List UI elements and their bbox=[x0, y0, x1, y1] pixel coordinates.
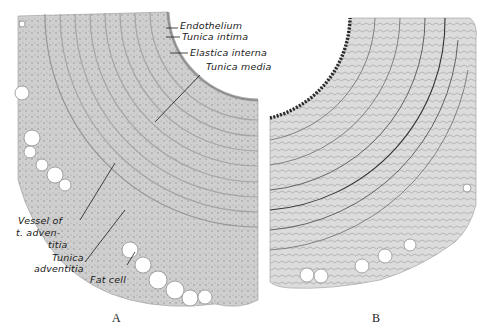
label-vessel-line2: t. adven- bbox=[16, 227, 60, 238]
label-adventitia-line1: Tunica bbox=[52, 252, 84, 263]
histology-figure: Endothelium Tunica intima Elastica inter… bbox=[0, 0, 491, 331]
panel-label-a: A bbox=[112, 311, 121, 326]
panel-b-tissue bbox=[270, 18, 476, 288]
label-endothelium: Endothelium bbox=[180, 20, 242, 31]
label-adventitia-line2: adventitia bbox=[34, 263, 84, 274]
label-tunica-intima: Tunica intima bbox=[182, 31, 248, 42]
panel-label-b: B bbox=[372, 311, 380, 326]
label-elastica-interna: Elastica interna bbox=[190, 47, 267, 58]
label-vessel-line1: Vessel of bbox=[18, 215, 62, 226]
label-tunica-media: Tunica media bbox=[206, 61, 272, 72]
label-fat-cell: Fat cell bbox=[90, 274, 126, 285]
label-vessel-line3: titia bbox=[48, 239, 68, 250]
